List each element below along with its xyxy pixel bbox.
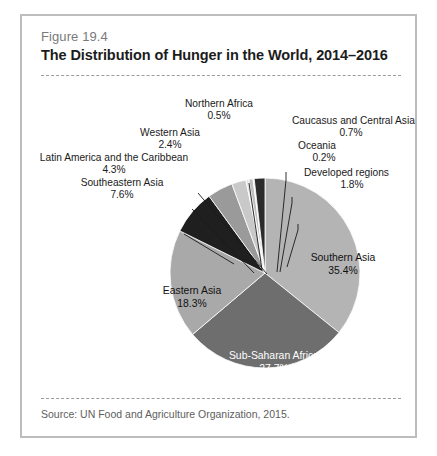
callout-southeastern-asia-value: 7.6% — [66, 189, 178, 201]
callout-northern-africa: Northern Africa 0.5% — [170, 98, 268, 123]
callout-developed-regions: Developed regions 1.8% — [304, 167, 416, 192]
callout-western-asia-label: Western Asia — [140, 127, 200, 138]
callout-southeastern-asia-label: Southeastern Asia — [81, 177, 164, 188]
wedge-label-southern-asia-value: 35.4% — [288, 265, 398, 278]
callout-developed-regions-label: Developed regions — [304, 167, 389, 178]
figure-title: The Distribution of Hunger in the World,… — [41, 47, 388, 63]
wedge-label-sub-saharan-africa-value: 27.7% — [206, 363, 342, 376]
callout-caucasus-label: Caucasus and Central Asia — [292, 115, 415, 126]
wedge-label-sub-saharan-africa: Sub-Saharan Africa 27.7% — [206, 350, 342, 375]
figure-number: Figure 19.4 — [41, 29, 108, 44]
callout-western-asia: Western Asia 2.4% — [130, 127, 210, 152]
wedge-label-eastern-asia: Eastern Asia 18.3% — [146, 285, 238, 310]
callout-latin-america-value: 4.3% — [36, 164, 192, 176]
callout-caucasus-value: 0.7% — [292, 127, 410, 139]
wedge-label-eastern-asia-value: 18.3% — [146, 298, 238, 311]
callout-northern-africa-value: 0.5% — [170, 110, 268, 122]
wedge-label-southern-asia: Southern Asia 35.4% — [288, 252, 398, 277]
wedge-label-southern-asia-text: Southern Asia — [311, 252, 376, 263]
callout-oceania-value: 0.2% — [298, 152, 350, 164]
callout-oceania: Oceania 0.2% — [298, 140, 378, 165]
callout-oceania-label: Oceania — [298, 140, 336, 151]
callout-southeastern-asia: Southeastern Asia 7.6% — [66, 177, 178, 202]
wedge-label-sub-saharan-africa-text: Sub-Saharan Africa — [229, 350, 319, 361]
wedge-label-eastern-asia-text: Eastern Asia — [163, 285, 221, 296]
figure-inner: Figure 19.4 The Distribution of Hunger i… — [22, 16, 415, 436]
callout-western-asia-value: 2.4% — [130, 139, 210, 151]
callout-developed-regions-value: 1.8% — [304, 179, 400, 191]
pie-chart: Northern Africa 0.5% Western Asia 2.4% L… — [22, 76, 415, 396]
figure-panel: Figure 19.4 The Distribution of Hunger i… — [20, 14, 417, 438]
divider-bottom — [41, 398, 401, 399]
callout-caucasus: Caucasus and Central Asia 0.7% — [292, 115, 416, 140]
figure-source: Source: UN Food and Agriculture Organiza… — [41, 408, 290, 420]
callout-northern-africa-label: Northern Africa — [185, 98, 253, 109]
callout-latin-america-label: Latin America and the Caribbean — [40, 152, 188, 163]
callout-latin-america: Latin America and the Caribbean 4.3% — [36, 152, 192, 177]
